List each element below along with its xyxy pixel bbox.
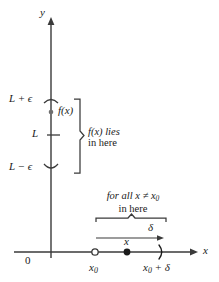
x-axis-label: x	[203, 245, 208, 257]
origin-label: 0	[25, 255, 31, 267]
x-filled-dot	[124, 249, 131, 256]
epsilon-delta-limit-figure: y x 0 L + ϵ L L − ϵ f(x) f(x) lies in he…	[0, 0, 219, 282]
domain-brace-caption: for all x ≠ x0 in here	[98, 190, 168, 214]
x0-plus-delta-suffix: + δ	[152, 261, 170, 273]
function-value-label: f(x)	[58, 105, 73, 117]
range-brace-caption: f(x) lies in here	[88, 126, 120, 149]
y-axis	[48, 17, 55, 258]
y-axis-label: y	[40, 7, 45, 19]
x0-open-circle	[92, 249, 98, 255]
x-point-label: x	[124, 236, 129, 248]
range-brace	[74, 99, 84, 173]
x0-label-subscript: 0	[94, 266, 98, 275]
x0-label: x0	[89, 262, 98, 276]
x0-plus-delta-label: x0 + δ	[143, 262, 170, 276]
delta-label: δ	[148, 222, 153, 234]
y-mark-limit-label: L	[32, 128, 38, 140]
domain-brace-caption-line1: for all x ≠ x0	[107, 190, 160, 201]
range-brace-caption-line1: f(x) lies	[88, 126, 120, 137]
domain-brace-caption-subscript: 0	[156, 194, 160, 203]
domain-brace-caption-line2: in here	[119, 203, 148, 214]
range-brace-caption-line2: in here	[88, 137, 117, 148]
domain-brace	[96, 214, 166, 222]
function-value-dot	[49, 110, 54, 115]
y-mark-upper-label: L + ϵ	[9, 93, 32, 105]
delta-arrow	[96, 235, 164, 241]
x-axis	[14, 249, 198, 256]
y-mark-lower-label: L − ϵ	[9, 161, 32, 173]
